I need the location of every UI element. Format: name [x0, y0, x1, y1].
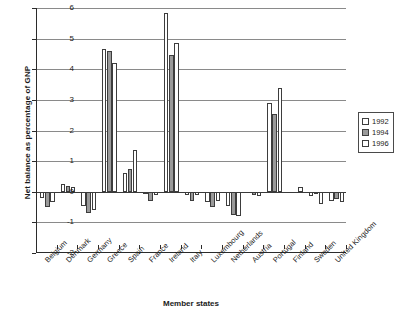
bar	[133, 150, 138, 191]
y-tick-label: 6	[50, 4, 74, 12]
bar	[102, 49, 107, 191]
bar	[334, 192, 339, 200]
bar	[298, 187, 303, 192]
bar-chart: Net balance as percentage of GNP 6543210…	[0, 0, 415, 319]
legend-swatch-1992	[362, 118, 369, 125]
y-tick-mark	[32, 39, 36, 40]
y-tick-mark	[32, 8, 36, 9]
y-tick-label: 4	[50, 65, 74, 73]
legend-item: 1996	[362, 138, 389, 149]
gridline	[37, 8, 346, 9]
bar	[210, 192, 215, 207]
bar	[278, 88, 283, 192]
gridline	[37, 222, 346, 223]
bar	[226, 192, 231, 206]
bar	[112, 63, 117, 192]
bar	[267, 103, 272, 192]
bar	[272, 114, 277, 192]
y-tick-mark	[32, 192, 36, 193]
bar	[236, 192, 241, 217]
legend-label: 1994	[372, 128, 389, 137]
bar	[309, 192, 314, 197]
y-tick-mark	[32, 100, 36, 101]
bar	[169, 55, 174, 191]
bar	[174, 43, 179, 192]
x-tick-mark	[36, 245, 37, 249]
bar	[314, 192, 319, 194]
bar	[148, 192, 153, 201]
bar	[340, 192, 345, 203]
gridline	[37, 131, 346, 132]
bar	[205, 192, 210, 203]
legend-item: 1994	[362, 127, 389, 138]
bar	[128, 169, 133, 192]
y-tick-label: 1	[50, 157, 74, 165]
y-tick-label: 2	[50, 127, 74, 135]
x-axis-title: Member states	[36, 299, 346, 308]
plot-area	[36, 8, 346, 253]
y-tick-label: 3	[50, 96, 74, 104]
y-axis-title: Net balance as percentage of GNP	[23, 48, 32, 218]
bar	[195, 192, 200, 195]
y-tick-mark	[32, 131, 36, 132]
x-tick-mark	[201, 245, 202, 249]
chart-legend: 199219941996	[358, 112, 394, 153]
y-tick-label: 0	[50, 188, 74, 196]
bar	[190, 192, 195, 201]
y-tick-mark	[32, 161, 36, 162]
legend-label: 1996	[372, 139, 389, 148]
bar	[81, 192, 86, 206]
bar	[86, 192, 91, 213]
y-tick-label: -1	[50, 218, 74, 226]
y-tick-mark	[32, 222, 36, 223]
gridline	[37, 100, 346, 101]
legend-swatch-1994	[362, 129, 369, 136]
legend-item: 1992	[362, 116, 389, 127]
bar	[329, 192, 334, 201]
bar	[257, 192, 262, 197]
bar	[319, 192, 324, 204]
gridline	[37, 69, 346, 70]
bar	[143, 192, 148, 194]
bar	[92, 192, 97, 210]
bar	[231, 192, 236, 215]
bar	[154, 192, 159, 195]
bar	[107, 51, 112, 192]
bar	[123, 173, 128, 191]
plot-inner	[37, 8, 346, 252]
gridline	[37, 161, 346, 162]
y-tick-mark	[32, 69, 36, 70]
bar	[45, 192, 50, 207]
bar	[40, 192, 45, 198]
y-tick-mark	[32, 253, 36, 254]
legend-label: 1992	[372, 117, 389, 126]
bar	[216, 192, 221, 201]
bar	[185, 192, 190, 195]
y-tick-label: 5	[50, 35, 74, 43]
bar	[164, 13, 169, 192]
bar	[252, 192, 257, 195]
legend-swatch-1996	[362, 140, 369, 147]
gridline	[37, 39, 346, 40]
